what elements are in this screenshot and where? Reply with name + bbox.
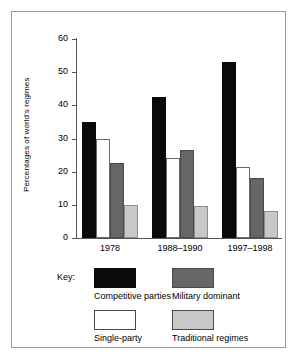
y-axis-tick-label: 60 xyxy=(32,34,68,43)
y-axis-tick xyxy=(72,72,77,73)
legend-label: Single-party xyxy=(94,333,142,343)
y-axis-tick-label-box: 30 xyxy=(30,134,68,144)
y-axis-tick-label-box: 10 xyxy=(30,200,68,210)
legend-label: Traditional regimes xyxy=(172,333,248,343)
legend-swatch xyxy=(94,310,136,330)
y-axis-tick-label: 10 xyxy=(32,200,68,209)
bar xyxy=(152,97,166,238)
bar xyxy=(124,205,138,238)
y-axis-tick-label: 30 xyxy=(32,134,68,143)
legend-label: Competitive parties xyxy=(94,291,171,301)
y-axis-tick-label-box: 40 xyxy=(30,100,68,110)
bar xyxy=(110,163,124,238)
x-axis-tick-label: 1997–1998 xyxy=(210,243,290,253)
x-axis-tick-label: 1988–1990 xyxy=(140,243,220,253)
bar xyxy=(264,211,278,238)
x-axis-line xyxy=(76,238,282,239)
plot-area: Percentages of world's regimes 010203040… xyxy=(12,12,285,252)
y-axis-tick xyxy=(72,205,77,206)
chart-legend: Key: Competitive partiesMilitary dominan… xyxy=(12,260,285,347)
bar xyxy=(194,206,208,238)
y-axis-tick-label-box: 0 xyxy=(30,233,68,243)
bar xyxy=(166,158,180,238)
y-axis-tick-label: 0 xyxy=(32,233,68,242)
y-axis-tick-label: 50 xyxy=(32,67,68,76)
y-axis-tick xyxy=(72,139,77,140)
legend-swatch xyxy=(94,268,136,288)
y-axis-tick xyxy=(72,39,77,40)
bar xyxy=(250,178,264,238)
legend-label: Military dominant xyxy=(172,291,240,301)
x-axis-tick-label: 1978 xyxy=(70,243,150,253)
chart-figure: Percentages of world's regimes 010203040… xyxy=(11,11,286,348)
bar xyxy=(236,167,250,238)
bar xyxy=(180,150,194,238)
legend-title: Key: xyxy=(57,272,75,282)
y-axis-tick-label-box: 60 xyxy=(30,34,68,44)
y-axis-tick-label: 40 xyxy=(32,100,68,109)
y-axis-tick xyxy=(72,238,77,239)
y-axis-tick-label-box: 20 xyxy=(30,167,68,177)
bar xyxy=(222,62,236,238)
y-axis-tick xyxy=(72,172,77,173)
y-axis-tick-label: 20 xyxy=(32,167,68,176)
y-axis-tick xyxy=(72,105,77,106)
y-axis-tick-label-box: 50 xyxy=(30,67,68,77)
legend-swatch xyxy=(172,268,214,288)
legend-swatch xyxy=(172,310,214,330)
bar xyxy=(82,122,96,238)
bar xyxy=(96,139,110,239)
